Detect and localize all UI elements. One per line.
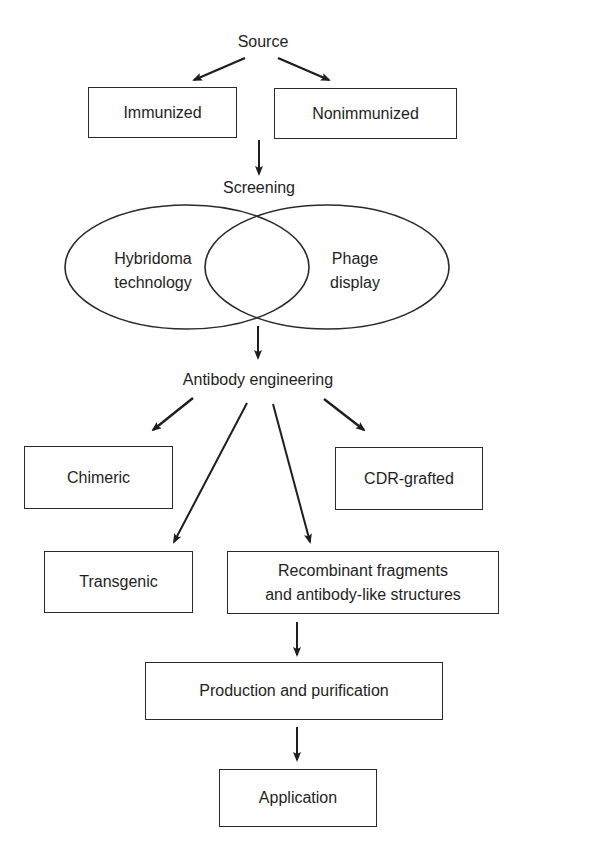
- cdr-grafted-label: CDR-grafted: [364, 469, 454, 489]
- arrow-to-transgenic: [174, 403, 247, 542]
- hybridoma-line2: technology: [103, 271, 203, 295]
- hybridoma-technology-label: Hybridoma technology: [103, 247, 203, 295]
- hybridoma-line1: Hybridoma: [103, 247, 203, 271]
- phage-display-label: Phage display: [325, 247, 385, 295]
- phage-line1: Phage: [325, 247, 385, 271]
- nonimmunized-box: Nonimmunized: [274, 88, 457, 139]
- recombinant-fragments-box: Recombinant fragments and antibody-like …: [227, 551, 499, 614]
- application-box: Application: [219, 769, 377, 827]
- arrow-source-to-nonimmunized: [278, 58, 329, 80]
- source-label: Source: [213, 32, 313, 51]
- application-label: Application: [259, 788, 337, 808]
- transgenic-box: Transgenic: [44, 551, 193, 613]
- antibody-engineering-label: Antibody engineering: [178, 370, 338, 389]
- chimeric-box: Chimeric: [24, 446, 173, 509]
- recombinant-line1: Recombinant fragments: [278, 559, 448, 583]
- immunized-label: Immunized: [123, 103, 201, 123]
- phage-line2: display: [325, 271, 385, 295]
- arrow-to-chimeric: [153, 398, 193, 430]
- cdr-grafted-box: CDR-grafted: [335, 447, 483, 510]
- arrow-to-cdr-grafted: [324, 399, 364, 430]
- production-label: Production and purification: [199, 681, 388, 701]
- arrow-source-to-immunized: [194, 58, 245, 80]
- recombinant-line2: and antibody-like structures: [265, 583, 461, 607]
- nonimmunized-label: Nonimmunized: [312, 104, 419, 124]
- immunized-box: Immunized: [88, 87, 237, 138]
- screening-label: Screening: [209, 178, 309, 197]
- transgenic-label: Transgenic: [79, 572, 158, 592]
- chimeric-label: Chimeric: [67, 468, 130, 488]
- production-purification-box: Production and purification: [145, 662, 443, 720]
- arrow-to-recombinant: [273, 404, 310, 542]
